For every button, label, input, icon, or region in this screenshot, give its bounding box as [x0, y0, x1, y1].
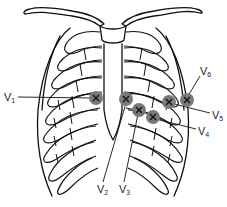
left-clavicle	[24, 8, 104, 26]
rib-cage-illustration	[0, 0, 227, 207]
v4-leader-line	[156, 119, 196, 129]
leader-lines	[18, 76, 210, 182]
label-v2: V2	[97, 184, 108, 196]
electrode-v6	[180, 93, 194, 107]
electrodes	[89, 91, 194, 124]
v5-leader-line	[174, 104, 210, 113]
electrode-v5	[162, 95, 176, 109]
label-v4: V4	[198, 126, 209, 138]
label-v6: V6	[200, 66, 211, 78]
label-v3: V3	[119, 184, 130, 196]
v1-leader-line	[18, 97, 92, 98]
sternum	[100, 26, 126, 140]
v2-leader-line	[103, 103, 126, 182]
left-ribs	[44, 32, 102, 195]
electrode-v3	[132, 103, 146, 117]
label-v5: V5	[212, 110, 223, 122]
left-rib-outline	[38, 28, 70, 196]
ecg-lead-diagram: V1 V2 V3 V4 V5 V6	[0, 0, 227, 207]
electrode-v1	[89, 91, 103, 105]
label-v1: V1	[4, 92, 15, 104]
right-rib-outline	[156, 28, 188, 196]
v6-leader-line	[188, 76, 200, 96]
cartilage-segments	[54, 48, 172, 162]
right-clavicle	[122, 8, 202, 26]
electrode-v2	[119, 92, 133, 106]
electrode-v4	[146, 110, 160, 124]
